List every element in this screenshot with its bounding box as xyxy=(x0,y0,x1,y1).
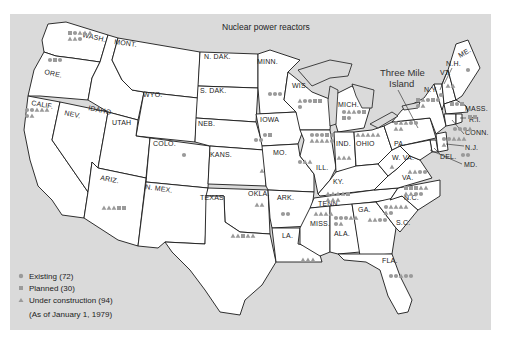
state-label-mich: MICH. xyxy=(338,101,359,108)
reactor-circle-marker xyxy=(383,218,387,222)
reactor-circle-marker xyxy=(330,133,334,137)
reactor-square-marker xyxy=(409,186,413,190)
reactor-circle-marker xyxy=(384,205,388,209)
state-ind xyxy=(334,132,356,172)
reactor-circle-marker xyxy=(409,274,413,278)
reactor-circle-marker xyxy=(414,192,418,196)
state-label-mass: MASS. xyxy=(465,105,488,112)
state-label-sc: S.C. xyxy=(396,219,410,226)
reactor-circle-marker xyxy=(436,98,440,102)
state-label-miss: MISS. xyxy=(310,220,330,227)
reactor-circle-marker xyxy=(409,121,413,125)
state-label-texas: TEXAS xyxy=(200,194,224,201)
reactor-circle-marker xyxy=(58,58,62,62)
lake-michigan xyxy=(328,86,338,126)
state-label-ga: GA. xyxy=(358,206,371,213)
state-label-va: VA. xyxy=(402,174,413,181)
reactor-circle-marker xyxy=(414,121,418,125)
reactor-circle-marker xyxy=(442,137,446,141)
reactor-circle-marker xyxy=(455,102,459,106)
reactor-circle-marker xyxy=(404,274,408,278)
reactor-circle-marker xyxy=(426,98,430,102)
reactor-square-marker xyxy=(325,133,329,137)
reactor-square-marker xyxy=(342,116,346,120)
reactor-square-marker xyxy=(362,110,366,114)
state-label-minn: MINN. xyxy=(257,58,278,65)
reactor-square-marker xyxy=(68,31,72,35)
state-label-ala: ALA. xyxy=(334,230,350,237)
legend-note: (As of January 1, 1979) xyxy=(29,310,112,319)
reactor-circle-marker xyxy=(30,108,34,112)
reactor-circle-marker xyxy=(423,170,427,174)
reactor-circle-marker xyxy=(73,31,77,35)
state-outlines xyxy=(24,22,480,315)
reactor-circle-marker xyxy=(458,127,462,131)
reactor-circle-marker xyxy=(298,105,302,109)
reactor-circle-marker xyxy=(463,127,467,131)
reactor-circle-marker xyxy=(339,216,343,220)
state-label-iowa: IOWA xyxy=(260,116,279,123)
reactor-circle-marker xyxy=(466,153,470,157)
state-label-la: LA. xyxy=(282,232,293,239)
reactor-circle-marker xyxy=(286,212,290,216)
state-label-nh: N.H. xyxy=(446,60,461,67)
reactor-triangle-marker xyxy=(452,137,457,141)
reactor-circle-marker xyxy=(281,212,285,216)
reactor-circle-marker xyxy=(273,92,277,96)
reactor-square-marker xyxy=(431,98,435,102)
state-label-utah: UTAH xyxy=(112,119,131,126)
reactor-square-marker xyxy=(468,115,472,119)
reactor-square-marker xyxy=(473,115,477,119)
reactor-circle-marker xyxy=(389,274,393,278)
state-label-ill: ILL. xyxy=(316,164,328,171)
reactor-circle-marker xyxy=(25,108,29,112)
state-fla xyxy=(338,254,412,314)
reactor-circle-marker xyxy=(310,133,314,137)
state-label-okla: OKLA. xyxy=(248,190,270,197)
reactor-square-marker xyxy=(416,98,420,102)
reactor-circle-marker xyxy=(330,139,334,143)
reactor-circle-marker xyxy=(334,216,338,220)
legend-triangle-icon xyxy=(19,298,24,302)
state-label-fla: FLA. xyxy=(382,257,398,264)
legend-circle-icon xyxy=(19,274,23,278)
reactor-circle-marker xyxy=(298,160,302,164)
state-wyo xyxy=(136,92,198,142)
reactor-circle-marker xyxy=(447,137,451,141)
state-label-wva: W. VA. xyxy=(392,154,414,161)
map-title: Nuclear power reactors xyxy=(222,22,310,32)
reactor-square-marker xyxy=(122,206,126,210)
legend: Existing (72) Planned (30) Under constru… xyxy=(19,272,113,319)
state-label-nj: N.J. xyxy=(465,144,478,151)
reactor-square-marker xyxy=(268,133,272,137)
state-label-ark: ARK. xyxy=(277,194,294,201)
reactor-circle-marker xyxy=(278,92,282,96)
reactor-circle-marker xyxy=(182,153,186,157)
legend-under-construction: Under construction (94) xyxy=(29,296,113,305)
reactor-circle-marker xyxy=(342,110,346,114)
state-ri xyxy=(456,114,462,124)
reactor-square-marker xyxy=(460,102,464,106)
reactor-circle-marker xyxy=(389,211,393,215)
state-label-ky: KY. xyxy=(333,178,344,185)
reactor-square-marker xyxy=(346,192,350,196)
state-label-wyo: WYO. xyxy=(143,91,162,98)
legend-existing: Existing (72) xyxy=(29,272,74,281)
reactor-circle-marker xyxy=(334,222,338,226)
state-label-ind: IND. xyxy=(336,140,351,147)
reactor-circle-marker xyxy=(394,121,398,125)
reactor-circle-marker xyxy=(315,133,319,137)
reactor-circle-marker xyxy=(418,170,422,174)
reactor-circle-marker xyxy=(48,58,52,62)
state-label-ohio: OHIO xyxy=(356,140,375,147)
reactor-circle-marker xyxy=(461,153,465,157)
reactor-circle-marker xyxy=(347,116,351,120)
reactor-circle-marker xyxy=(263,133,267,137)
state-label-mo: MO. xyxy=(273,149,287,156)
reactor-circle-marker xyxy=(416,104,420,108)
state-label-del: DEL. xyxy=(440,153,456,160)
us-map: Nuclear power reactors WASH.ORE.CALIF.NE… xyxy=(0,0,505,337)
reactor-circle-marker xyxy=(259,138,263,142)
reactor-circle-marker xyxy=(78,37,82,41)
legend-planned: Planned (30) xyxy=(29,284,75,293)
